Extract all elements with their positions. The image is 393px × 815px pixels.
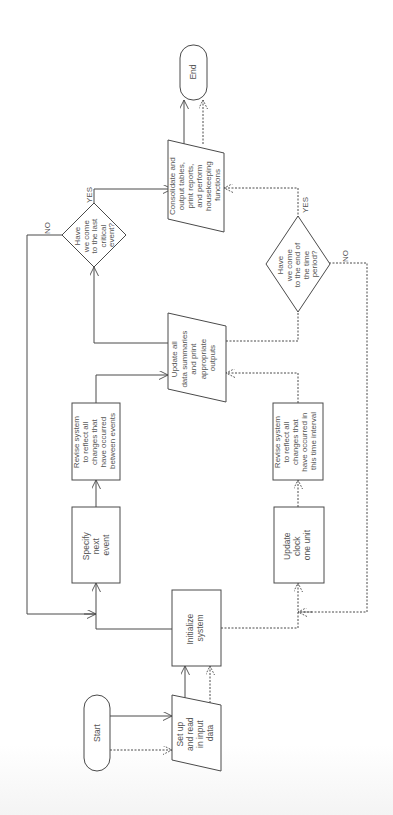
start-label: Start bbox=[92, 723, 102, 742]
edge-initialize-update-clock bbox=[221, 583, 298, 628]
revise-events-label: Revise system to reflect all changes tha… bbox=[72, 413, 117, 469]
update-clock-node: Update clock one unit bbox=[274, 507, 324, 583]
end-label: End bbox=[188, 64, 198, 79]
edge-decision-time-yes-consolidate bbox=[224, 188, 298, 232]
revise-events-node: Revise system to reflect all changes tha… bbox=[72, 403, 120, 480]
revise-interval-node: Revise system to reflect all changes tha… bbox=[273, 403, 323, 480]
initialize-system-node: Initialize system bbox=[172, 590, 221, 666]
specify-next-event-node: Specify next event bbox=[72, 507, 120, 583]
edge-update-decision-time bbox=[226, 296, 298, 341]
initialize-label: Initialize system bbox=[185, 611, 205, 644]
decision-last-critical-event: Have we come to the last critical event? bbox=[62, 203, 126, 267]
edge-update-decision-last bbox=[94, 267, 168, 343]
dashed-edges bbox=[110, 100, 367, 750]
edge-decision-yes-consolidate bbox=[94, 189, 172, 203]
time-period-yes-label: YES bbox=[301, 197, 310, 213]
last-event-no-label: NO bbox=[43, 222, 52, 234]
revise-interval-label: Revise system to reflect all changes tha… bbox=[273, 410, 318, 471]
edge-revise-interval-update bbox=[226, 373, 298, 403]
decision-end-of-time-period: Have we come to the end of the time peri… bbox=[266, 216, 330, 312]
edge-initialize-specify bbox=[96, 583, 172, 629]
end-terminal: End bbox=[180, 45, 207, 100]
setup-input-node: Set up and read in input data bbox=[172, 695, 221, 771]
edge-revise-update bbox=[96, 375, 168, 403]
update-summaries-node: Update all data summaries and print appr… bbox=[168, 313, 226, 402]
flowchart-canvas: Start Set up and read in input data Init… bbox=[0, 0, 393, 815]
last-event-yes-label: YES bbox=[85, 187, 94, 203]
start-terminal: Start bbox=[84, 695, 110, 771]
consolidate-node: Consolidate and output tables, print rep… bbox=[168, 140, 224, 232]
time-period-no-label: NO bbox=[341, 250, 350, 262]
